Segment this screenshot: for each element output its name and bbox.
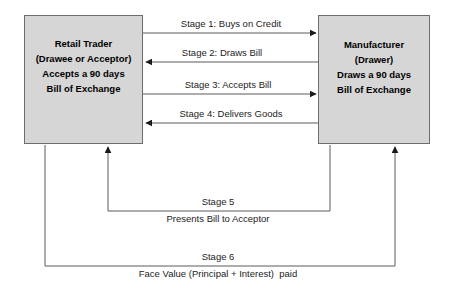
stage-4-label: Stage 4: Delivers Goods xyxy=(180,108,283,119)
stage-2-label: Stage 2: Draws Bill xyxy=(182,47,262,58)
entity-box-manufacturer: Manufacturer (Drawer) Draws a 90 days Bi… xyxy=(318,15,430,144)
entity-retail-trader-line-3: Accepts a 90 days xyxy=(42,66,124,81)
entity-manufacturer-line-2: (Drawer) xyxy=(355,52,394,67)
entity-manufacturer-line-1: Manufacturer xyxy=(344,37,404,52)
stage-6-sublabel: Face Value (Principal + Interest) paid xyxy=(139,268,298,279)
entity-retail-trader-line-4: Bill of Exchange xyxy=(47,81,121,96)
stage-5-label: Stage 5 xyxy=(202,196,235,207)
stage-5-sublabel: Presents Bill to Acceptor xyxy=(167,213,270,224)
stage-3-label: Stage 3: Accepts Bill xyxy=(185,79,272,90)
entity-retail-trader-line-1: Retail Trader xyxy=(55,36,113,51)
entity-manufacturer-line-3: Draws a 90 days xyxy=(337,67,411,82)
entity-retail-trader-line-2: (Drawee or Acceptor) xyxy=(36,51,132,66)
entity-manufacturer-line-4: Bill of Exchange xyxy=(337,82,411,97)
diagram-canvas: Retail Trader (Drawee or Acceptor) Accep… xyxy=(0,0,458,288)
entity-box-retail-trader: Retail Trader (Drawee or Acceptor) Accep… xyxy=(24,15,143,144)
stage-6-label: Stage 6 xyxy=(202,251,235,262)
stage-1-label: Stage 1: Buys on Credit xyxy=(181,18,281,29)
